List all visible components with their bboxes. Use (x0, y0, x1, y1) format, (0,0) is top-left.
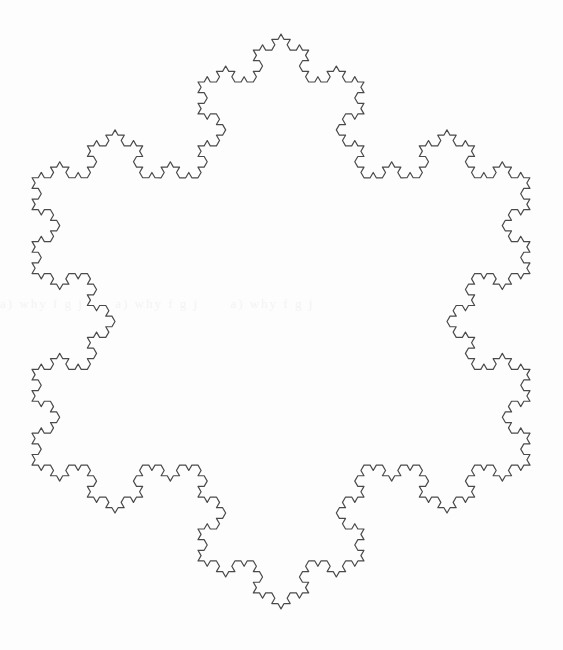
koch-snowflake-path (32, 34, 530, 609)
figure-canvas: a) why f g j a) why f g j a) why f g j (0, 0, 563, 650)
koch-snowflake-figure (0, 0, 563, 650)
